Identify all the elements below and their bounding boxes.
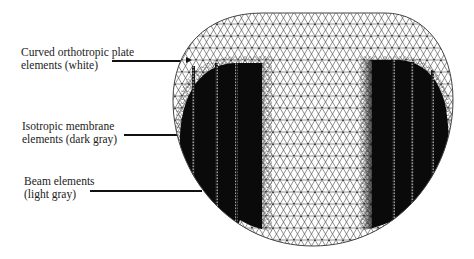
right-membrane-region <box>362 60 453 250</box>
beam-stripe <box>431 70 434 250</box>
left-membrane-region <box>180 63 266 253</box>
beam-stripe <box>192 66 195 250</box>
beam-stripe <box>411 62 414 250</box>
fe-mesh-diagram <box>0 0 474 259</box>
beam-stripe <box>392 60 395 250</box>
beam-stripe <box>215 63 218 250</box>
mesh-body <box>170 10 460 253</box>
